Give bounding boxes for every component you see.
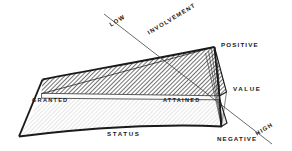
diagram-canvas [0, 0, 292, 151]
involvement-status-value-diagram: LOW INVOLVEMENT HIGH POSITIVE NEGATIVE V… [0, 0, 292, 151]
upper-hatched-region [42, 47, 220, 96]
lower-region [19, 98, 222, 137]
